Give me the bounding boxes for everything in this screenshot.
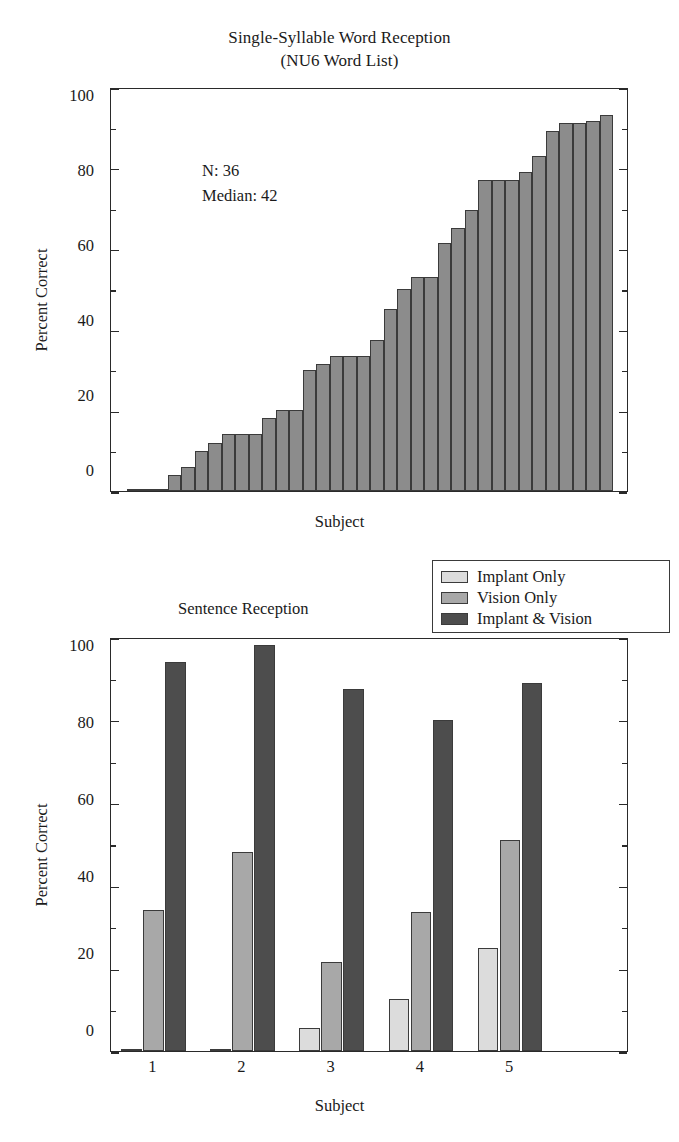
sentence-reception-figure: Sentence Reception Implant Only Vision O…	[0, 545, 679, 1142]
bar-series-sentence-reception	[111, 639, 627, 1051]
xtick-label-subject-2: 2	[237, 1057, 245, 1077]
plot-area-word-reception	[110, 88, 628, 492]
bar-word-reception	[262, 418, 276, 491]
bar-word-reception	[222, 434, 236, 491]
y-tick-right-50	[622, 845, 627, 846]
legend-item-implant-only[interactable]: Implant Only	[441, 566, 659, 587]
bar-series-word-reception	[111, 89, 627, 491]
bar-word-reception	[451, 228, 465, 491]
xtick-label-subject-1: 1	[148, 1057, 156, 1077]
y-tick-20	[111, 412, 119, 413]
ytick-label-bottom-40: 40	[32, 869, 94, 886]
y-tick-right-30	[622, 928, 627, 929]
bar-word-reception	[478, 180, 492, 491]
bar-word-reception	[532, 156, 546, 491]
bar-implant-vision	[254, 645, 275, 1051]
y-tick-right-20	[619, 412, 627, 413]
xtick-label-subject-4: 4	[416, 1057, 424, 1077]
ytick-label-top-100: 100	[32, 88, 94, 105]
bar-implant-vision	[165, 662, 186, 1051]
y-tick-right-0	[619, 1052, 627, 1053]
y-tick-50	[111, 845, 116, 846]
bar-implant-vision	[522, 683, 543, 1051]
y-tick-right-0	[619, 492, 627, 493]
y-tick-40	[111, 331, 119, 332]
bar-word-reception	[181, 467, 195, 491]
legend-item-implant-and-vision[interactable]: Implant & Vision	[441, 608, 659, 629]
y-tick-100	[111, 88, 119, 89]
y-tick-right-80	[619, 721, 627, 722]
legend-swatch-implant-and-vision	[441, 613, 468, 625]
y-tick-right-40	[619, 887, 627, 888]
y-tick-80	[111, 721, 119, 722]
legend-swatch-vision-only	[441, 592, 468, 604]
y-tick-50	[111, 290, 116, 291]
y-tick-right-30	[622, 371, 627, 372]
y-tick-right-20	[619, 970, 627, 971]
bar-word-reception	[519, 172, 533, 491]
bar-word-reception	[465, 210, 479, 491]
chart-title-line1: Single-Syllable Word Reception	[228, 28, 450, 47]
legend-sentence-reception: Implant Only Vision Only Implant & Visio…	[432, 560, 670, 633]
bar-implant-only	[210, 1049, 231, 1051]
y-tick-right-10	[622, 1011, 627, 1012]
legend-label-vision-only: Vision Only	[477, 589, 557, 607]
y-tick-30	[111, 928, 116, 929]
bar-word-reception	[424, 277, 438, 491]
y-tick-0	[111, 492, 119, 493]
annotation-n-top: N: 36	[202, 158, 239, 183]
bar-word-reception	[141, 489, 155, 491]
chart-title-line2: (NU6 Word List)	[0, 49, 679, 72]
ytick-label-top-40: 40	[32, 313, 94, 330]
bar-word-reception	[586, 121, 600, 491]
bar-word-reception	[127, 489, 141, 491]
legend-label-implant-and-vision: Implant & Vision	[477, 610, 592, 628]
bar-word-reception	[438, 243, 452, 491]
bar-word-reception	[168, 475, 182, 491]
ytick-label-top-0: 0	[32, 463, 94, 480]
chart-title-word-reception: Single-Syllable Word Reception (NU6 Word…	[0, 26, 679, 72]
legend-label-implant-only: Implant Only	[477, 568, 565, 586]
bar-word-reception	[397, 289, 411, 491]
xtick-label-subject-5: 5	[505, 1057, 513, 1077]
ytick-label-top-60: 60	[32, 238, 94, 255]
y-tick-right-70	[622, 210, 627, 211]
y-tick-20	[111, 970, 119, 971]
bar-implant-only	[389, 999, 410, 1051]
y-tick-30	[111, 371, 116, 372]
bar-word-reception	[303, 370, 317, 491]
legend-item-vision-only[interactable]: Vision Only	[441, 587, 659, 608]
bar-implant-vision	[343, 689, 364, 1051]
y-tick-right-100	[619, 88, 627, 89]
y-tick-right-10	[622, 452, 627, 453]
bar-word-reception	[357, 356, 371, 491]
y-tick-100	[111, 638, 119, 639]
y-tick-70	[111, 210, 116, 211]
y-tick-60	[111, 804, 119, 805]
y-tick-right-100	[619, 638, 627, 639]
bar-word-reception	[208, 443, 222, 491]
bar-implant-only	[299, 1028, 320, 1051]
ytick-label-top-80: 80	[32, 163, 94, 180]
bar-vision-only	[411, 912, 432, 1051]
legend-swatch-implant-only	[441, 571, 468, 583]
y-tick-80	[111, 169, 119, 170]
bar-word-reception	[249, 434, 263, 491]
bar-vision-only	[500, 840, 521, 1051]
bar-word-reception	[154, 489, 168, 491]
ytick-label-bottom-100: 100	[32, 638, 94, 655]
xtick-label-subject-3: 3	[327, 1057, 335, 1077]
bar-word-reception	[289, 410, 303, 491]
bar-word-reception	[343, 356, 357, 491]
bar-word-reception	[573, 123, 587, 491]
annotation-median-top: Median: 42	[202, 183, 278, 208]
y-tick-0	[111, 1052, 119, 1053]
bar-word-reception	[411, 277, 425, 491]
bar-word-reception	[492, 180, 506, 491]
y-tick-40	[111, 887, 119, 888]
bar-word-reception	[600, 115, 614, 491]
ytick-label-bottom-80: 80	[32, 715, 94, 732]
bar-vision-only	[143, 910, 164, 1051]
bar-word-reception	[316, 364, 330, 491]
bar-word-reception	[276, 410, 290, 491]
